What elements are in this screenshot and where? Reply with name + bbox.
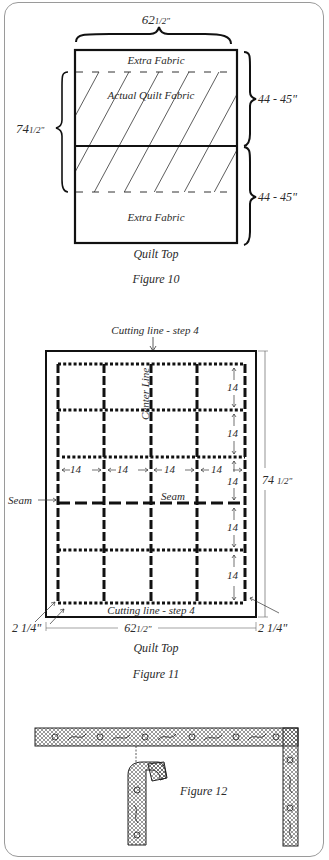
fig11-subtitle: Quilt Top: [133, 642, 178, 654]
fig11-dim-h-4: 14: [211, 464, 222, 475]
fig10-caption: Figure 10: [132, 273, 179, 285]
fig11-dim-v-5: 14: [227, 570, 238, 581]
left-brace: [56, 72, 68, 192]
fig11-dim-h-2: 14: [117, 464, 128, 475]
fig11-cutting-line-bottom: Cutting line - step 4: [107, 605, 194, 616]
figure-11-diagram: [35, 337, 279, 631]
fig11-width-label: 621/2": [124, 622, 151, 634]
fig11-dim-v-2: 14: [227, 428, 238, 439]
top-brace: [76, 27, 231, 44]
right-brace-bottom: [244, 147, 256, 245]
fig11-center-line: Center Line: [140, 368, 151, 420]
fig11-dim-v-3: 14: [227, 476, 238, 487]
fig10-width-label: 621/2": [142, 13, 170, 26]
fig10-extra-fabric-bottom: Extra Fabric: [127, 212, 184, 223]
figure-12-diagram: [35, 728, 298, 846]
fig10-subtitle: Quilt Top: [133, 248, 178, 260]
fig11-caption: Figure 11: [133, 668, 179, 680]
fig11-dim-h-3: 14: [164, 464, 175, 475]
illustrations: [0, 0, 329, 860]
fig11-dim-v-4: 14: [227, 522, 238, 533]
fig11-cutting-line-top: Cutting line - step 4: [111, 325, 198, 336]
fig10-height-label: 741/2": [16, 122, 44, 135]
fig11-height-label: 74 1/2": [262, 474, 292, 486]
fig11-dim-v-1: 14: [227, 382, 238, 393]
fig11-seam-center: Seam: [161, 491, 185, 502]
fig10-actual-quilt-fabric: Actual Quilt Fabric: [108, 90, 195, 101]
fig10-top-section-label: 44 - 45": [258, 93, 297, 105]
fig11-margin-right: 2 1/4": [258, 622, 287, 634]
fig11-seam-left: Seam: [8, 495, 32, 506]
fig10-bottom-section-label: 44 - 45": [258, 191, 297, 203]
fig11-margin-left: 2 1/4": [12, 622, 41, 634]
fig11-dim-h-1: 14: [70, 464, 81, 475]
fig10-extra-fabric-top: Extra Fabric: [127, 55, 184, 66]
right-brace-top: [244, 52, 256, 146]
fig12-caption: Figure 12: [180, 785, 227, 797]
